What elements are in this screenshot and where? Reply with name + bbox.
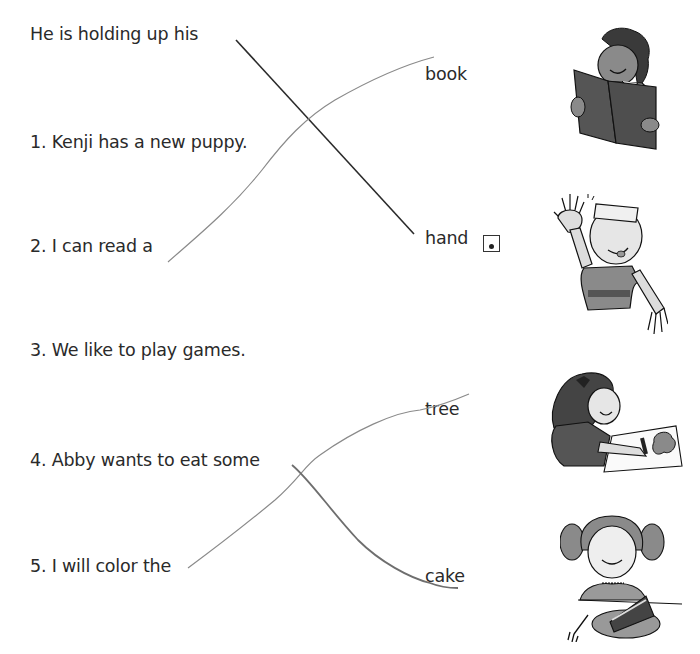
- boy-reading-book-image: [560, 25, 660, 150]
- line-4-cake: [292, 465, 458, 588]
- line-2-book: [168, 57, 434, 262]
- boy-waving-hand-image: [548, 190, 668, 340]
- girl-eating-cake-image: [560, 512, 685, 642]
- girl-coloring-tree-image: [540, 368, 685, 473]
- line-5-tree: [188, 394, 469, 568]
- line-example-hand: [236, 40, 414, 234]
